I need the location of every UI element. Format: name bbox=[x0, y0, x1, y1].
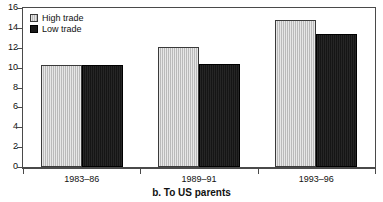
bar-low-trade bbox=[199, 64, 240, 167]
x-axis-tick bbox=[140, 169, 141, 174]
x-axis-category-label: 1993–96 bbox=[299, 174, 334, 184]
x-axis-tick bbox=[375, 169, 376, 174]
legend-label-low-trade: Low trade bbox=[42, 25, 82, 34]
bar-high-trade bbox=[158, 47, 199, 167]
x-axis-tick bbox=[258, 169, 259, 174]
bar-group bbox=[140, 8, 257, 167]
bar-low-trade bbox=[316, 34, 357, 167]
y-axis: 0246810121416 bbox=[0, 0, 18, 202]
x-axis-line bbox=[22, 167, 376, 169]
bar-group bbox=[258, 8, 375, 167]
legend-item-low-trade: Low trade bbox=[30, 24, 84, 34]
legend-label-high-trade: High trade bbox=[42, 14, 84, 23]
chart-caption: b. To US parents bbox=[0, 187, 383, 198]
light-gray-swatch-icon bbox=[30, 14, 38, 22]
bar-low-trade bbox=[82, 65, 123, 167]
x-axis-category-label: 1989–91 bbox=[181, 174, 216, 184]
bar-high-trade bbox=[41, 65, 82, 167]
bar-high-trade bbox=[275, 20, 316, 167]
x-axis-category-label: 1983–86 bbox=[64, 174, 99, 184]
black-swatch-icon bbox=[30, 25, 38, 33]
legend-item-high-trade: High trade bbox=[30, 13, 84, 23]
bar-chart: 0246810121416 High trade Low trade b. To… bbox=[0, 0, 383, 202]
chart-legend: High trade Low trade bbox=[30, 13, 84, 35]
x-axis-tick bbox=[23, 169, 24, 174]
